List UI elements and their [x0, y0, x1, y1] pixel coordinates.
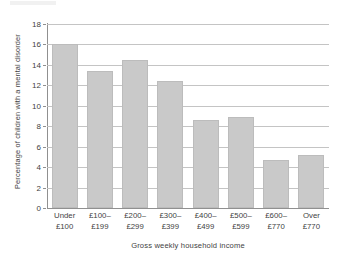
y-tick-mark: [43, 126, 46, 127]
x-tick-label: £400–£499: [188, 211, 223, 232]
y-tick-mark: [43, 44, 46, 45]
x-tick-label-line2: £770: [259, 222, 294, 233]
bar: [157, 81, 183, 208]
bar: [52, 44, 78, 208]
x-tick-label: Under£100: [47, 211, 82, 232]
x-tick-label-line1: £400–: [195, 211, 217, 220]
y-tick-label: 6: [37, 142, 41, 151]
x-tick-label: £500–£599: [223, 211, 258, 232]
y-tick-mark: [43, 65, 46, 66]
x-tick-label-line2: £599: [223, 222, 258, 233]
y-tick-mark: [43, 106, 46, 107]
y-tick-label: 2: [37, 183, 41, 192]
bar: [298, 155, 324, 208]
y-tick-label: 18: [32, 20, 41, 29]
bar: [263, 160, 289, 208]
plot-area: 024681012141618: [47, 24, 329, 208]
x-tick-label: £600–£770: [259, 211, 294, 232]
y-tick-label: 10: [32, 101, 41, 110]
y-tick-mark: [43, 167, 46, 168]
y-tick-mark: [43, 188, 46, 189]
x-tick-label-line1: Over: [303, 211, 320, 220]
x-tick-label-line1: £600–: [265, 211, 287, 220]
bar: [122, 60, 148, 208]
x-tick-label-line1: Under: [54, 211, 75, 220]
x-tick-label-line2: £100: [47, 222, 82, 233]
x-tick-label: Over£770: [294, 211, 329, 232]
x-axis-title: Gross weekly household income: [47, 241, 329, 250]
y-tick-label: 14: [32, 60, 41, 69]
bars: [47, 24, 329, 208]
y-tick-mark: [43, 147, 46, 148]
y-tick-label: 8: [37, 122, 41, 131]
y-tick-label: 0: [37, 204, 41, 213]
x-tick-label-line1: £500–: [230, 211, 252, 220]
bar: [87, 71, 113, 208]
x-tick-label: £100–£199: [82, 211, 117, 232]
x-tick-label-line1: £300–: [160, 211, 182, 220]
x-tick-label-line2: £770: [294, 222, 329, 233]
y-tick-mark: [43, 85, 46, 86]
bar: [228, 117, 254, 208]
x-tick-label-line1: £100–: [89, 211, 111, 220]
y-axis-title: Percentage of children with a mental dis…: [13, 12, 22, 212]
bar: [193, 120, 219, 208]
y-tick-mark: [43, 208, 46, 209]
y-tick-mark: [43, 24, 46, 25]
x-axis-line: [47, 208, 329, 209]
x-tick-label: £300–£399: [153, 211, 188, 232]
x-tick-label-line2: £399: [153, 222, 188, 233]
x-tick-label-line1: £200–: [124, 211, 146, 220]
y-tick-label: 12: [32, 81, 41, 90]
bar-chart-figure: Percentage of children with a mental dis…: [0, 0, 341, 259]
x-axis-tick-labels: Under£100£100–£199£200–£299£300–£399£400…: [47, 211, 329, 237]
x-tick-label-line2: £499: [188, 222, 223, 233]
y-tick-label: 16: [32, 40, 41, 49]
x-tick-label-line2: £299: [118, 222, 153, 233]
y-tick-label: 4: [37, 163, 41, 172]
x-tick-label-line2: £199: [82, 222, 117, 233]
x-tick-label: £200–£299: [118, 211, 153, 232]
